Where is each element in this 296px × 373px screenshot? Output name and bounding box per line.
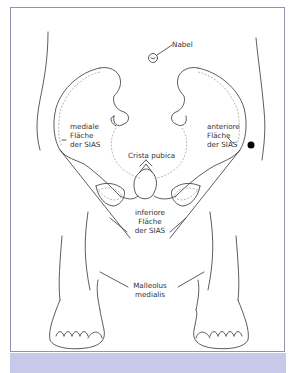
label-inferiore-line3: der SIAS <box>128 226 172 235</box>
label-malleolus-medialis: Malleolus medialis <box>128 281 172 299</box>
label-anteriore-flaeche: anteriore Fläche der SIAS <box>207 122 240 149</box>
label-anteriore-line1: anteriore <box>207 122 240 131</box>
label-anteriore-line2: Fläche <box>207 131 240 140</box>
sias-marker <box>248 142 255 149</box>
label-mediale-line3: der SIAS <box>70 140 100 149</box>
label-malleolus-line1: Malleolus <box>128 281 172 290</box>
anatomy-illustration <box>0 0 296 373</box>
label-nabel: Nabel <box>172 40 193 49</box>
label-crista-pubica: Crista pubica <box>128 151 175 160</box>
label-inferiore-flaeche: inferiore Fläche der SIAS <box>128 208 172 235</box>
label-malleolus-line2: medialis <box>128 290 172 299</box>
label-mediale-line2: Fläche <box>70 131 100 140</box>
label-inferiore-line1: inferiore <box>128 208 172 217</box>
label-mediale-flaeche: mediale Fläche der SIAS <box>70 122 100 149</box>
label-inferiore-line2: Fläche <box>128 217 172 226</box>
label-anteriore-line3: der SIAS <box>207 140 240 149</box>
label-mediale-line1: mediale <box>70 122 100 131</box>
